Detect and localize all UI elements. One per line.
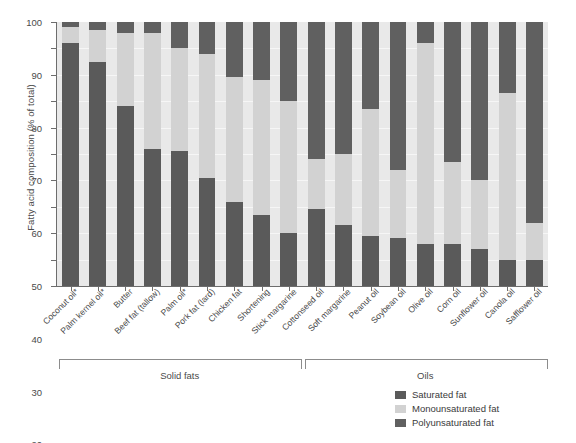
- bar-segment-mono: [444, 162, 461, 244]
- bar-segment-sat: [171, 151, 188, 286]
- bar: [471, 22, 488, 286]
- bar: [89, 22, 106, 286]
- bar-segment-mono: [499, 93, 516, 259]
- bar-segment-sat: [280, 233, 297, 286]
- bar-segment-mono: [89, 30, 106, 62]
- bar: [253, 22, 270, 286]
- bar: [335, 22, 352, 286]
- y-tick: 30: [51, 207, 57, 208]
- legend-label: Saturated fat: [412, 389, 466, 400]
- plot-area: 0102030405060708090100: [57, 22, 548, 286]
- y-tick: 40: [51, 180, 57, 181]
- bar-segment-poly: [526, 22, 543, 223]
- bar-segment-poly: [362, 22, 379, 109]
- bar-segment-poly: [499, 22, 516, 93]
- bar-segment-mono: [362, 109, 379, 236]
- group-bracket: [59, 359, 302, 369]
- bar-segment-sat: [308, 209, 325, 286]
- bar-segment-poly: [199, 22, 216, 54]
- legend-swatch-poly: [395, 419, 406, 427]
- bar-segment-mono: [144, 33, 161, 149]
- legend-label: Polyunsaturated fat: [412, 417, 494, 428]
- x-axis-labels: Coconut oil*Palm kernel oil*ButterBeef f…: [57, 288, 548, 358]
- bar-segment-poly: [226, 22, 243, 77]
- bar-segment-sat: [499, 260, 516, 286]
- bar-segment-poly: [171, 22, 188, 48]
- x-tick-label: Olive oil: [408, 288, 437, 317]
- bar-segment-mono: [117, 33, 134, 107]
- bar-segment-mono: [199, 54, 216, 178]
- y-tick: 20: [51, 233, 57, 234]
- bar-segment-poly: [390, 22, 407, 170]
- bar: [62, 22, 79, 286]
- bar: [417, 22, 434, 286]
- y-tick: 100: [51, 22, 57, 23]
- y-tick-label: 90: [31, 69, 42, 80]
- bar-segment-sat: [526, 260, 543, 286]
- bar-segment-poly: [471, 22, 488, 180]
- y-tick: 10: [51, 260, 57, 261]
- legend-swatch-mono: [395, 405, 406, 413]
- bar: [390, 22, 407, 286]
- bar-segment-poly: [444, 22, 461, 162]
- y-tick-label: 70: [31, 175, 42, 186]
- bar-segment-sat: [417, 244, 434, 286]
- y-tick-label: 60: [31, 228, 42, 239]
- legend-item: Polyunsaturated fat: [395, 416, 499, 429]
- bar-segment-mono: [62, 27, 79, 43]
- y-tick-label: 30: [31, 386, 42, 397]
- bar-segment-poly: [253, 22, 270, 80]
- bar-segment-mono: [253, 80, 270, 215]
- bar: [280, 22, 297, 286]
- y-tick-label: 100: [26, 17, 42, 28]
- y-axis-title: Fatty acid composition (% of total): [25, 68, 36, 248]
- bar: [526, 22, 543, 286]
- y-tick-label: 50: [31, 281, 42, 292]
- legend-item: Monounsaturated fat: [395, 402, 499, 415]
- chart-figure: Fatty acid composition (% of total) 0102…: [0, 0, 576, 443]
- x-axis-line: [56, 286, 548, 287]
- y-tick: 50: [51, 154, 57, 155]
- group-bracket-label: Oils: [305, 370, 546, 381]
- bar-segment-mono: [226, 77, 243, 201]
- bar-segment-sat: [362, 236, 379, 286]
- bar-segment-poly: [117, 22, 134, 33]
- bar: [226, 22, 243, 286]
- bar-segment-mono: [390, 170, 407, 239]
- bar-segment-poly: [308, 22, 325, 159]
- bar: [199, 22, 216, 286]
- bar-segment-sat: [89, 62, 106, 286]
- bar: [117, 22, 134, 286]
- bar-segment-sat: [253, 215, 270, 286]
- group-bracket: [305, 359, 548, 369]
- bar-segment-sat: [226, 202, 243, 286]
- y-tick: 90: [51, 48, 57, 49]
- bar: [171, 22, 188, 286]
- legend-item: Saturated fat: [395, 388, 499, 401]
- bar-segment-sat: [199, 178, 216, 286]
- bar-segment-mono: [280, 101, 297, 233]
- y-tick: 80: [51, 75, 57, 76]
- y-tick: 0: [51, 286, 57, 287]
- bar-segment-sat: [117, 106, 134, 286]
- bar-segment-mono: [308, 159, 325, 209]
- bar-segment-poly: [417, 22, 434, 43]
- bar-segment-sat: [62, 43, 79, 286]
- bar-segment-poly: [335, 22, 352, 154]
- bar: [444, 22, 461, 286]
- bar: [499, 22, 516, 286]
- bar: [308, 22, 325, 286]
- bar-segment-mono: [171, 48, 188, 151]
- bar-segment-poly: [280, 22, 297, 101]
- bar: [144, 22, 161, 286]
- bar-segment-mono: [471, 180, 488, 249]
- y-tick-label: 20: [31, 439, 42, 443]
- group-bracket-label: Solid fats: [59, 370, 300, 381]
- bar-segment-sat: [335, 225, 352, 286]
- legend-swatch-sat: [395, 391, 406, 399]
- y-tick: 70: [51, 101, 57, 102]
- bar: [362, 22, 379, 286]
- bar-segment-sat: [471, 249, 488, 286]
- bar-segment-mono: [526, 223, 543, 260]
- bar-segment-poly: [144, 22, 161, 33]
